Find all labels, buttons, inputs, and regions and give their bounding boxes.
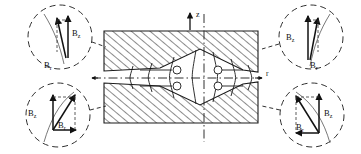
pole-gap-field-diagram: r z Bz Br Bz Br (0, 0, 361, 154)
z-axis-label: z (196, 10, 200, 19)
diagram-background (0, 0, 361, 154)
